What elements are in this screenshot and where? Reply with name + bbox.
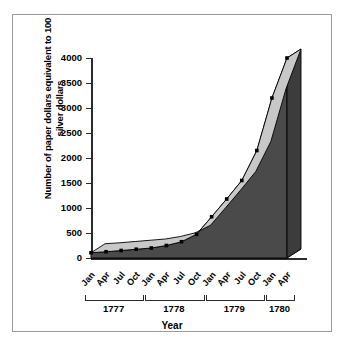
chart-page: Number of paper dollars equivalent to 10… <box>0 0 344 346</box>
data-point-marker <box>285 56 289 60</box>
data-point-marker <box>240 179 244 183</box>
chart-frame: Number of paper dollars equivalent to 10… <box>12 14 332 332</box>
year-bracket <box>85 295 144 301</box>
data-point-marker <box>255 149 259 153</box>
year-label: 1780 <box>256 303 303 314</box>
year-bracket <box>145 295 204 301</box>
data-point-marker <box>134 247 138 251</box>
plot-area: 05001000150020002500300035004000 JanAprJ… <box>13 15 333 333</box>
data-point-marker <box>195 232 199 236</box>
data-point-marker <box>165 244 169 248</box>
year-bracket <box>206 295 265 301</box>
data-point-marker <box>104 250 108 254</box>
data-point-marker <box>225 197 229 201</box>
data-point-marker <box>210 215 214 219</box>
data-point-marker <box>89 251 93 255</box>
year-bracket <box>266 295 295 301</box>
x-axis-title: Year <box>13 320 331 331</box>
data-point-marker <box>119 249 123 253</box>
data-point-marker <box>180 240 184 244</box>
data-point-marker <box>150 246 154 250</box>
data-point-marker <box>270 96 274 100</box>
